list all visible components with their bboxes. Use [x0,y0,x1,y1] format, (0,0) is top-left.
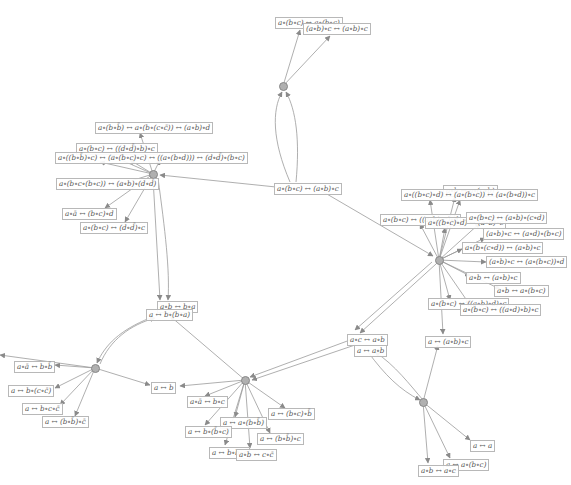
expression-label[interactable]: a ↔ (b∘b̄)∘c̄ [42,416,89,428]
expression-label[interactable]: a ↔ b∘(b∘a) [146,309,193,321]
expression-label[interactable]: a∘(b∘c∘(b∘c)) ↔ (a∘b)∘(d∘d̄) [56,178,159,190]
expression-label[interactable]: a∘((b∘b̄)∘c) ↔ (a∘(b∘c)∘c) ↔ ((a∘(b∘d)))… [55,152,248,164]
expression-label[interactable]: a ↔ (b∘b̄)∘c [257,433,304,445]
expression-label[interactable]: a ↔ a [470,440,495,452]
expression-label[interactable]: a∘ā ↔ (b∘c)∘d [62,208,117,220]
expression-label[interactable]: a∘((b∘c)∘d) ↔ (a∘(b∘c)) ↔ (a∘(b∘d))∘c [401,189,538,201]
expression-label[interactable]: a∘ā ↔ b∘b̄ [14,361,55,373]
expression-label[interactable]: a∘(b∘c) ↔ (a∘b)∘c [274,183,342,195]
expression-label[interactable]: a ↔ (b∘c)∘b̄ [268,408,315,420]
expression-label[interactable]: a∘(b∘c) ↔ (a∘b)∘(c∘d) [466,212,547,224]
graph-node[interactable] [91,364,100,373]
expression-label[interactable]: a∘(b∘c) ↔ ((a∘d)∘b)∘c [460,304,541,316]
expression-label[interactable]: (a∘b)∘c ↔ (a∘d)∘(b∘c) [483,228,564,240]
expression-label[interactable]: a∘(b∘(c∘d)) ↔ (a∘b)∘c [462,242,543,254]
graph-node[interactable] [279,82,288,91]
expression-label[interactable]: a ↔ b∘(c∘c̄) [8,385,54,397]
expression-label[interactable]: a∘ā ↔ b∘c [187,396,228,408]
expression-label[interactable]: a∘(b∘b̄) ↔ a∘(b∘(c∘c̄)) ↔ (a∘b)∘d [95,122,213,134]
expression-label[interactable]: (a∘b)∘c ↔ (a∘b)∘c [303,23,371,35]
graph-node[interactable] [435,256,444,265]
expression-label[interactable]: a ↔ a∘b [354,345,387,357]
expression-label[interactable]: a ↔ b∘c∘c̄ [22,403,63,415]
expression-label[interactable]: a ↔ b∘(b̄∘c) [185,426,232,438]
graph-node[interactable] [419,398,428,407]
expression-label[interactable]: a ↔ (a∘b)∘c [425,336,471,348]
graph-node[interactable] [241,376,250,385]
expression-label[interactable]: a∘b ↔ (a∘b)∘c [466,272,521,284]
expression-label[interactable]: a∘b ↔ c∘c̄ [236,449,277,461]
expression-label[interactable]: a∘(b∘c) ↔ (d∘d̄)∘c [80,222,148,234]
expression-label[interactable]: a ↔ b [151,382,176,394]
expression-label[interactable]: a∘b ↔ a∘c [418,465,459,477]
expression-label[interactable]: (a∘b)∘c ↔ (a∘(b∘c))∘d [486,256,567,268]
expression-label[interactable]: a∘b ↔ a∘(b∘c) [494,285,549,297]
